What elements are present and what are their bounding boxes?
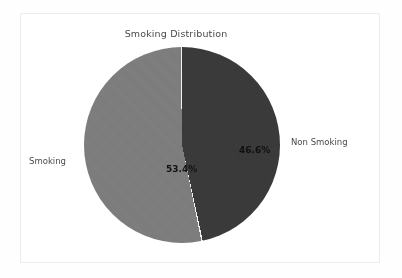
- screenshot-root: Smoking Distribution 46.6% 53.4% Smoking…: [0, 0, 402, 278]
- chart-card: Smoking Distribution 46.6% 53.4% Smoking…: [20, 13, 380, 263]
- slice-label-non-smoking: Non Smoking: [291, 137, 348, 147]
- pie-chart: 46.6% 53.4%: [84, 47, 280, 243]
- slice-value-smoking: 53.4%: [166, 164, 197, 174]
- slice-label-smoking: Smoking: [29, 156, 66, 166]
- chart-title: Smoking Distribution: [21, 28, 331, 39]
- slice-value-non-smoking: 46.6%: [239, 145, 270, 155]
